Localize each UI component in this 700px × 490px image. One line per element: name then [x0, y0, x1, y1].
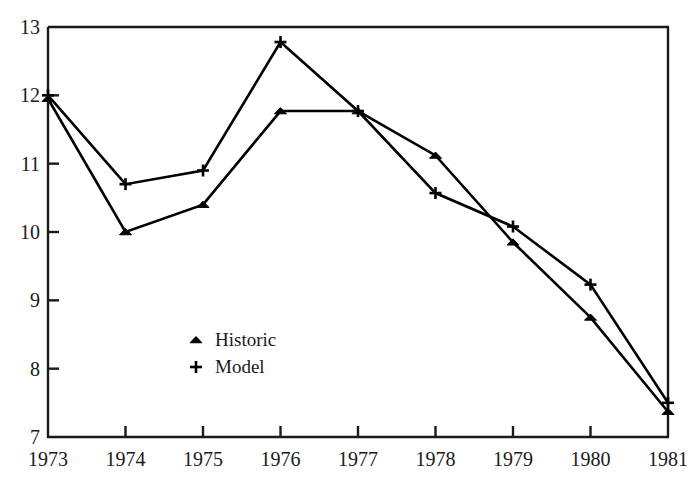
data-series-layer: [42, 36, 674, 414]
legend-marker-historic: [190, 337, 202, 343]
marker-historic-1981: [662, 408, 674, 414]
legend-label-historic: Historic: [215, 329, 276, 351]
chart-figure: 78910111213 1973197419751976197719781979…: [0, 0, 700, 490]
y-tick-label-8: 8: [2, 359, 40, 379]
y-tick-label-13: 13: [2, 17, 40, 37]
series-line-historic: [48, 99, 668, 412]
plot-border: [48, 27, 668, 437]
series-historic: [42, 95, 674, 414]
y-axis-ticks: [48, 95, 59, 368]
marker-historic-1979: [507, 239, 519, 245]
y-tick-label-10: 10: [2, 222, 40, 242]
series-line-model: [48, 42, 668, 403]
x-tick-label-1973: 1973: [28, 449, 68, 469]
legend-label-model: Model: [215, 356, 265, 378]
legend-marker-layer: [190, 337, 202, 373]
x-tick-label-1976: 1976: [261, 449, 301, 469]
x-tick-label-1979: 1979: [493, 449, 533, 469]
y-tick-label-12: 12: [2, 85, 40, 105]
x-tick-label-1981: 1981: [648, 449, 688, 469]
y-tick-label-11: 11: [2, 154, 40, 174]
y-tick-label-9: 9: [2, 290, 40, 310]
series-model: [42, 36, 674, 409]
marker-model-1975: [197, 165, 209, 177]
x-tick-label-1980: 1980: [571, 449, 611, 469]
line-chart-canvas: [0, 0, 700, 490]
x-tick-label-1975: 1975: [183, 449, 223, 469]
y-tick-label-7: 7: [2, 427, 40, 447]
axis-frame: [48, 27, 668, 437]
x-tick-label-1974: 1974: [106, 449, 146, 469]
x-tick-label-1977: 1977: [338, 449, 378, 469]
legend-marker-model: [190, 361, 202, 373]
x-tick-label-1978: 1978: [416, 449, 456, 469]
x-axis-ticks: [126, 426, 591, 437]
marker-historic-1975: [197, 201, 209, 207]
